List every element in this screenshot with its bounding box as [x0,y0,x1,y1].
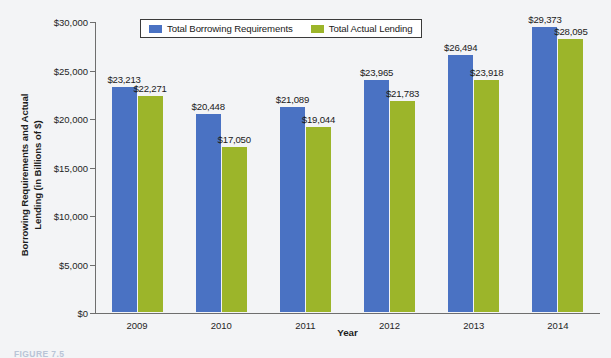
bar-value-label: $17,050 [218,134,251,145]
bar-lending[interactable] [558,39,583,312]
y-axis-tick [90,168,96,169]
bar-value-label: $19,044 [302,114,335,125]
y-axis-tick-label: $0 [26,308,88,319]
bar-shadow [163,99,167,312]
bar-value-label: $22,271 [133,83,166,94]
bar-borrowing[interactable] [448,55,473,312]
y-axis-tick [90,265,96,266]
bar-shadow [331,130,335,312]
bar-shadow [499,83,503,312]
x-axis-title: Year [95,327,600,338]
bar-group: $20,448$17,050 [196,21,247,312]
bar-value-label: $21,089 [276,94,309,105]
y-axis-tick-label: $5,000 [26,259,88,270]
y-axis-tick-label: $10,000 [26,211,88,222]
legend-label-borrowing: Total Borrowing Requirements [167,23,293,34]
chart-legend: Total Borrowing Requirements Total Actua… [140,19,422,38]
bar-group: $21,089$19,044 [280,21,331,312]
figure-caption: FIGURE 7.5 [14,349,64,358]
bar-lending[interactable] [390,101,415,312]
bar-value-label: $28,095 [554,26,587,37]
bar-value-label: $20,448 [192,101,225,112]
plot-area: $23,213$22,271$20,448$17,050$21,089$19,0… [95,22,600,313]
bar-value-label: $21,783 [386,88,419,99]
legend-item-lending: Total Actual Lending [311,23,413,34]
bar-borrowing[interactable] [532,27,557,312]
bar-borrowing[interactable] [364,80,389,312]
bar-shadow [583,42,587,312]
bar-value-label: $23,918 [470,67,503,78]
bar-group: $23,965$21,783 [364,21,415,312]
bar-lending[interactable] [138,96,163,312]
bar-lending[interactable] [474,80,499,312]
y-axis-tick-label: $30,000 [26,17,88,28]
y-axis-tick [90,119,96,120]
legend-swatch-icon-borrowing [149,25,162,33]
y-axis-tick-label: $25,000 [26,65,88,76]
bar-value-label: $29,373 [528,14,561,25]
bar-borrowing[interactable] [280,107,305,312]
bar-value-label: $23,965 [360,67,393,78]
x-axis-line [95,313,600,314]
legend-swatch-icon-lending [311,25,324,33]
bar-lending[interactable] [306,127,331,312]
bar-group: $29,373$28,095 [532,21,583,312]
bar-group: $26,494$23,918 [448,21,499,312]
bar-borrowing[interactable] [112,87,137,312]
bar-shadow [415,104,419,312]
y-axis-tick-label: $15,000 [26,162,88,173]
legend-label-lending: Total Actual Lending [329,23,413,34]
y-axis-tick-label: $20,000 [26,114,88,125]
y-axis-title: Borrowing Requirements and Actual Lendin… [14,60,48,290]
bar-value-label: $26,494 [444,42,477,53]
bar-lending[interactable] [222,147,247,312]
y-axis-tick [90,313,96,314]
y-axis-tick [90,216,96,217]
y-axis-tick [90,71,96,72]
bar-shadow [247,150,251,312]
y-axis-tick [90,22,96,23]
legend-item-borrowing: Total Borrowing Requirements [149,23,293,34]
figure-container: Borrowing Requirements and Actual Lendin… [0,0,611,358]
bar-group: $23,213$22,271 [112,21,163,312]
